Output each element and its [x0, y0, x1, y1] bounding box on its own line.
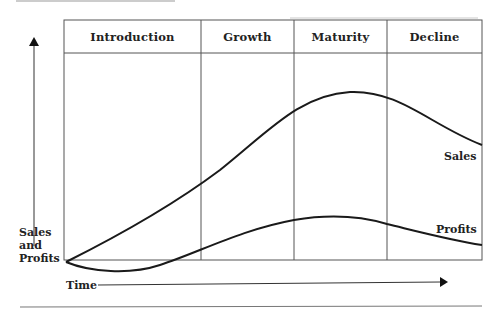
- x-axis-line: [98, 282, 440, 285]
- stage-decline: Decline: [387, 20, 482, 53]
- y-axis-label-line-3: Profits: [19, 252, 60, 265]
- y-axis-label-line-1: Sales: [19, 226, 60, 239]
- stage-growth: Growth: [201, 20, 294, 53]
- stage-introduction: Introduction: [64, 20, 201, 53]
- y-axis-label-line-2: and: [19, 239, 60, 252]
- x-axis-label: Time: [66, 279, 97, 292]
- bottom-rule: [20, 306, 482, 307]
- sales-curve: [66, 92, 482, 262]
- y-axis-label: Sales and Profits: [19, 226, 60, 265]
- profits-curve-label: Profits: [436, 223, 477, 236]
- stage-maturity: Maturity: [294, 20, 387, 53]
- y-axis-arrow-icon: [29, 37, 39, 46]
- profits-curve: [66, 217, 482, 272]
- sales-curve-label: Sales: [444, 150, 476, 163]
- product-life-cycle-diagram: Introduction Growth Maturity Decline Sal…: [0, 0, 501, 320]
- x-axis-arrow-icon: [440, 277, 448, 287]
